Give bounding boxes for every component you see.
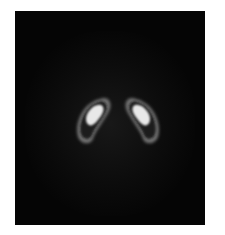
right-striatum	[125, 98, 159, 143]
spect-scan-image	[15, 11, 205, 225]
striatum-uptake	[15, 11, 205, 225]
left-striatum	[77, 98, 111, 143]
